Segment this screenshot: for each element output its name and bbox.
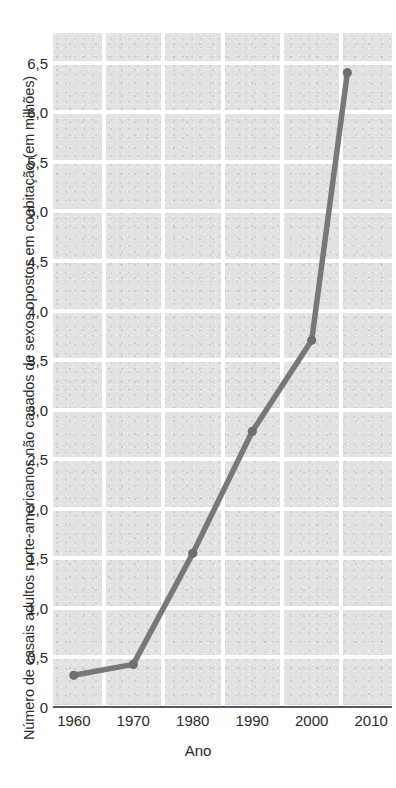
series-line [74, 73, 348, 676]
data-point [69, 671, 78, 680]
chart-figure: Número de casais adultos norte-americano… [0, 0, 396, 788]
series-markers [69, 68, 352, 680]
data-point [129, 660, 138, 669]
data-point [307, 336, 316, 345]
data-point [248, 427, 257, 436]
data-point [343, 68, 352, 77]
data-series-layer [0, 0, 396, 788]
data-point [188, 549, 197, 558]
